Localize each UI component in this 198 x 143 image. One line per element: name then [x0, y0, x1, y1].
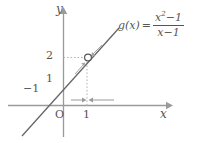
function-label: g(x) = x2−1 x−1	[118, 12, 184, 38]
x-tick-label-1: 1	[83, 109, 90, 120]
y-tick-label-1: 1	[46, 73, 53, 84]
y-tick-label-2: 2	[46, 50, 53, 61]
approach-arrow-right-head	[89, 98, 94, 103]
origin-label: O	[55, 109, 64, 120]
numerator-rest: −1	[166, 11, 182, 24]
fraction-numerator: x2−1	[153, 12, 184, 25]
fraction: x2−1 x−1	[153, 12, 184, 38]
y-axis-label: y	[56, 3, 63, 15]
hole-open-circle	[85, 54, 92, 61]
x-approach-arrows	[71, 98, 114, 103]
figure-canvas: y x O 2 1 1 −1 g(x) = x2−1 x−1	[0, 0, 198, 143]
x-axis-arrowhead	[166, 102, 173, 109]
x-axis	[8, 102, 173, 109]
x-tick-label-minus-1: −1	[23, 83, 39, 94]
approach-arrow-left-head	[82, 98, 87, 103]
equals-sign: =	[142, 19, 151, 32]
function-name: g(x)	[118, 19, 140, 32]
fraction-denominator: x−1	[155, 26, 181, 39]
x-axis-label: x	[160, 108, 167, 120]
